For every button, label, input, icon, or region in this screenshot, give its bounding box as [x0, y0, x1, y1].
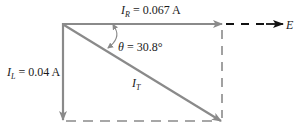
- theta-value: 30.8°: [137, 40, 163, 54]
- ir-label: IR = 0.067 A: [121, 4, 181, 16]
- theta-angle-arc: [108, 28, 117, 48]
- e-symbol: E: [286, 18, 293, 32]
- reference-e-label: E: [286, 19, 293, 31]
- il-label: IL = 0.04 A: [7, 66, 60, 78]
- phasor-diagram: IR = 0.067 A IL = 0.04 A θ = 30.8° IT E: [0, 0, 300, 133]
- ir-equals: =: [130, 3, 143, 17]
- il-value: 0.04 A: [28, 65, 60, 79]
- ir-value: 0.067 A: [143, 3, 181, 17]
- theta-equals: =: [124, 40, 137, 54]
- il-equals: =: [15, 65, 28, 79]
- theta-label: θ = 30.8°: [118, 41, 163, 53]
- it-label: IT: [132, 77, 140, 89]
- it-subscript: T: [136, 83, 140, 92]
